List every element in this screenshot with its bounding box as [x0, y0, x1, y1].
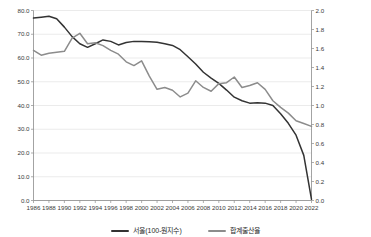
- y-tick-label-right: 0.8: [316, 121, 325, 128]
- x-tick-label: 2004: [166, 204, 180, 211]
- y-tick-label-right: 1.6: [316, 45, 325, 52]
- x-tick-label: 2008: [197, 204, 211, 211]
- y-tick-label-left: 80.0: [17, 7, 30, 14]
- x-tick-label: 1998: [119, 204, 133, 211]
- x-tick-label: 2022: [305, 204, 319, 211]
- x-tick-label: 2018: [274, 204, 288, 211]
- x-tick-label: 1988: [42, 204, 56, 211]
- y-tick-label-right: 0.0: [316, 197, 325, 204]
- legend-swatch-seoul: [111, 230, 129, 232]
- x-tick-label: 2020: [289, 204, 303, 211]
- x-tick-label: 2014: [243, 204, 257, 211]
- y-tick-label-left: 70.0: [17, 30, 30, 37]
- x-tick-label: 2000: [135, 204, 149, 211]
- y-tick-label-right: 1.0: [316, 102, 325, 109]
- y-tick-label-right: 1.8: [316, 26, 325, 33]
- y-tick-label-right: 1.4: [316, 64, 325, 71]
- y-tick-label-left: 40.0: [17, 102, 30, 109]
- line-chart: 0.010.020.030.040.050.060.070.080.00.00.…: [0, 0, 371, 237]
- x-tick-label: 2010: [212, 204, 226, 211]
- y-tick-label-right: 0.4: [316, 159, 325, 166]
- y-tick-label-right: 0.6: [316, 140, 325, 147]
- x-tick-label: 1992: [73, 204, 87, 211]
- legend-label-seoul: 서울(100-원지수): [133, 227, 182, 234]
- x-tick-label: 2012: [227, 204, 241, 211]
- legend-swatch-fertility: [208, 230, 226, 232]
- y-tick-label-left: 60.0: [17, 54, 30, 61]
- x-tick-label: 1986: [27, 204, 41, 211]
- y-tick-label-left: 50.0: [17, 78, 30, 85]
- x-tick-label: 2006: [181, 204, 195, 211]
- x-tick-label: 1996: [104, 204, 118, 211]
- y-tick-label-left: 30.0: [17, 125, 30, 132]
- legend-label-fertility: 합계출산율: [230, 227, 260, 234]
- chart-legend: 서울(100-원지수) 합계출산율: [0, 227, 371, 234]
- legend-item-seoul[interactable]: 서울(100-원지수): [111, 227, 182, 234]
- y-tick-label-right: 2.0: [316, 7, 325, 14]
- y-tick-label-left: 10.0: [17, 173, 30, 180]
- x-tick-label: 1990: [58, 204, 72, 211]
- y-tick-label-left: 0.0: [21, 197, 30, 204]
- y-tick-label-right: 0.2: [316, 178, 325, 185]
- series-line-fertility: [34, 33, 312, 126]
- series-line-seoul: [34, 16, 312, 199]
- x-tick-label: 1994: [88, 204, 102, 211]
- y-tick-label-right: 1.2: [316, 83, 325, 90]
- x-tick-label: 2002: [150, 204, 164, 211]
- x-tick-label: 2016: [258, 204, 272, 211]
- chart-plot-area: 0.010.020.030.040.050.060.070.080.00.00.…: [0, 0, 371, 237]
- y-tick-label-left: 20.0: [17, 149, 30, 156]
- legend-item-fertility[interactable]: 합계출산율: [208, 227, 260, 234]
